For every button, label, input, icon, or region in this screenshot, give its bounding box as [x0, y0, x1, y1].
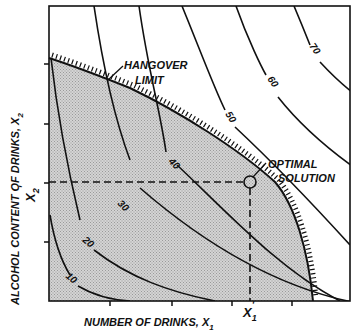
hangover-label-line2: LIMIT — [135, 74, 165, 86]
contour-60 — [236, 6, 352, 166]
contour-label-50: 50 — [223, 109, 238, 125]
contour-diagram: 10 20 30 40 50 60 70 HANGOVER LIMIT OPTI… — [0, 0, 360, 334]
contour-label-60: 60 — [265, 74, 281, 90]
x-axis-title: NUMBER OF DRINKS, X1 — [84, 316, 214, 332]
x-optimum-label: X1' — [242, 300, 257, 323]
optimal-label-line2: SOLUTION — [278, 172, 336, 184]
optimal-label-line1: OPTIMAL — [268, 158, 318, 170]
y-optimum-label: X2' — [18, 185, 41, 203]
y-axis-title: ALCOHOL CONTENT OF DRINKS, X2 — [9, 113, 25, 306]
hangover-label-line1: HANGOVER — [124, 59, 188, 71]
